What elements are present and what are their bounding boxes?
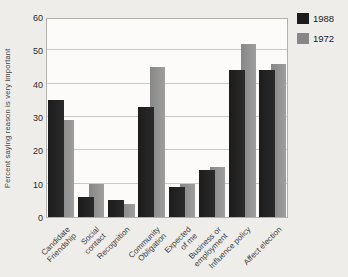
bar-1988-affect-election <box>259 70 275 217</box>
x-category-label-community-obligation: Community Obligation <box>127 225 169 267</box>
y-tick-label-60: 60 <box>23 13 43 23</box>
bar-1988-influence-policy <box>229 70 245 217</box>
legend-label-1972: 1972 <box>313 33 334 44</box>
x-category-label-candidate-friendship: Candidate Friendship <box>39 225 78 264</box>
y-tick-label-40: 40 <box>23 80 43 90</box>
y-tick-label-30: 30 <box>23 113 43 123</box>
legend-item-1988: 1988 <box>297 13 334 24</box>
bar-1988-candidate-friendship <box>48 100 64 217</box>
legend-item-1972: 1972 <box>297 33 334 44</box>
legend-label-1988: 1988 <box>313 13 334 24</box>
bar-1988-social-contact <box>78 197 94 217</box>
bar-1988-community-obligation <box>138 107 154 217</box>
y-tick-label-50: 50 <box>23 46 43 56</box>
legend: 1988 1972 <box>297 13 334 53</box>
y-tick-label-0: 0 <box>23 213 43 223</box>
y-axis-title: Percent saying reason is very important <box>3 18 12 218</box>
plot-area <box>46 18 288 218</box>
bar-1988-expected-of-me <box>169 187 185 217</box>
y-tick-label-20: 20 <box>23 146 43 156</box>
legend-swatch-1972-icon <box>297 33 309 44</box>
bar-1988-recognition <box>108 200 124 217</box>
bar-1988-business-or-employment <box>199 170 215 217</box>
legend-swatch-1988-icon <box>297 13 309 24</box>
y-tick-label-10: 10 <box>23 180 43 190</box>
bar-chart-figure: Percent saying reason is very important … <box>0 0 348 277</box>
